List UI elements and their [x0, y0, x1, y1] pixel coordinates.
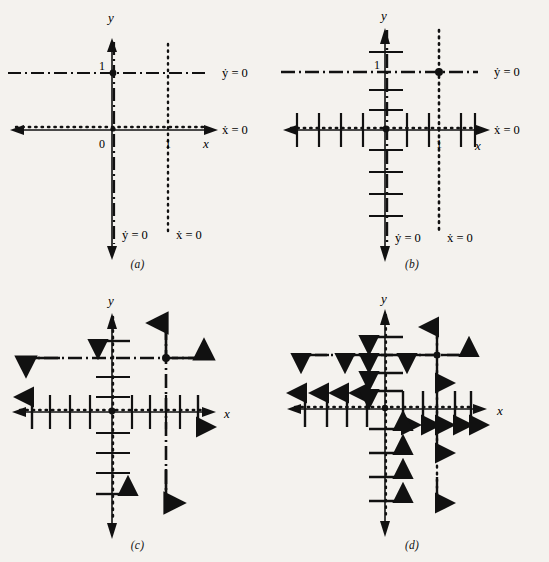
- xdot-zero-bottom-label: ẋ = 0: [176, 228, 202, 242]
- xdot-zero-bottom-label: ẋ = 0: [447, 231, 473, 245]
- x-axis-arrowhead: [202, 407, 216, 417]
- panel-a-caption: (a): [0, 258, 275, 270]
- x-axis-label: x: [223, 406, 230, 421]
- x-axis-arrowhead: [473, 404, 487, 414]
- y-axis-arrowhead: [107, 38, 117, 52]
- x-axis-arrowhead-left: [287, 404, 301, 414]
- panel-a-svg: y x 1 0 1 ẏ = 0 ẋ = 0 ẏ = 0 ẋ = 0: [0, 0, 275, 281]
- x-axis-arrowhead: [204, 125, 218, 135]
- y-axis-arrowhead-down: [107, 523, 117, 539]
- fixed-point-origin: [382, 405, 388, 411]
- fixed-point-origin: [383, 126, 390, 133]
- fixed-point-origin: [109, 408, 116, 415]
- y-axis-arrowhead: [107, 313, 117, 329]
- panel-c: y x (c): [0, 281, 275, 562]
- x-axis-label: x: [496, 403, 503, 418]
- panel-d-svg: y x: [275, 281, 549, 562]
- panel-d-plot: y x: [275, 281, 549, 562]
- panel-c-plot: y x: [0, 281, 275, 562]
- x-axis-arrowhead: [476, 125, 490, 135]
- panel-a-plot: y x 1 0 1 ẏ = 0 ẋ = 0 ẏ = 0 ẋ = 0: [0, 0, 275, 281]
- figure-grid: y x 1 0 1 ẏ = 0 ẋ = 0 ẏ = 0 ẋ = 0 (a): [0, 0, 549, 562]
- y-axis-label: y: [106, 10, 114, 25]
- panel-b-plot: y x 1 1 ẏ = 0 ẋ = 0 ẏ = 0 ẋ = 0: [275, 0, 549, 281]
- y-axis-label: y: [106, 293, 114, 308]
- origin-tick: 0: [99, 137, 105, 151]
- panel-b-svg: y x 1 1 ẏ = 0 ẋ = 0 ẏ = 0 ẋ = 0: [275, 0, 549, 281]
- y-axis-label: y: [379, 291, 387, 306]
- x-axis-label: x: [202, 136, 209, 151]
- fixed-point-interior: [435, 68, 443, 76]
- ydot-zero-right-label: ẏ = 0: [494, 65, 520, 79]
- xdot-zero-right-label: ẋ = 0: [222, 123, 248, 137]
- fixed-point-origin: [110, 126, 115, 131]
- panel-c-svg: y x: [0, 281, 275, 562]
- ydot-zero-bottom-label: ẏ = 0: [395, 231, 421, 245]
- panel-d: y x (d): [275, 281, 549, 562]
- panel-b-caption: (b): [275, 258, 549, 270]
- y-axis-label: y: [379, 8, 387, 23]
- panel-c-caption: (c): [0, 539, 275, 551]
- y-axis-arrowhead: [380, 28, 390, 44]
- panel-d-caption: (d): [275, 539, 549, 551]
- panel-b: y x 1 1 ẏ = 0 ẋ = 0 ẏ = 0 ẋ = 0 (b): [275, 0, 549, 281]
- x-tick-one: 1: [165, 137, 171, 151]
- x-axis-label: x: [474, 138, 481, 153]
- fixed-point-interior: [162, 354, 170, 362]
- fixed-point-interior: [110, 70, 117, 77]
- fixed-point-interior: [433, 351, 440, 358]
- ydot-zero-bottom-label: ẏ = 0: [122, 228, 148, 242]
- ydot-zero-right-label: ẏ = 0: [222, 66, 248, 80]
- y-tick-one: 1: [374, 58, 380, 72]
- x-axis-arrowhead-left: [283, 125, 297, 135]
- y-axis-arrowhead-down: [380, 521, 390, 537]
- x-tick-one: 1: [436, 137, 442, 151]
- y-tick-one: 1: [99, 59, 105, 73]
- panel-a: y x 1 0 1 ẏ = 0 ẋ = 0 ẏ = 0 ẋ = 0 (a): [0, 0, 275, 281]
- xdot-zero-right-label: ẋ = 0: [494, 123, 520, 137]
- x-axis-arrowhead-left: [12, 407, 26, 417]
